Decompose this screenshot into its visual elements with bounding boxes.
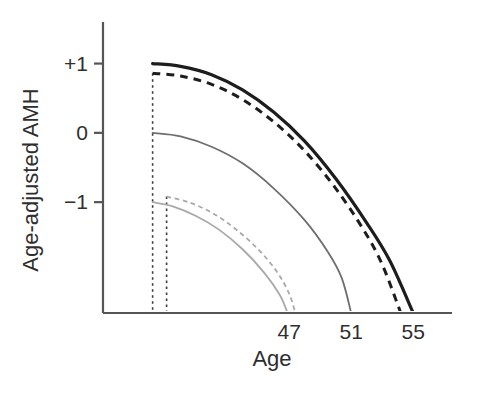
y-tick-label: −1 <box>64 190 88 213</box>
series-low-amh-dashed <box>167 197 296 313</box>
x-tick-label: 47 <box>277 320 300 343</box>
series-group <box>153 64 414 313</box>
line-chart: +10−1 475155 Age-adjusted AMH Age <box>0 0 478 395</box>
series-highest-amh-solid <box>153 64 414 313</box>
x-tick-label-group: 475155 <box>277 320 424 343</box>
annotation-group <box>153 73 167 313</box>
x-tick-label: 55 <box>402 320 425 343</box>
series-high-amh-dashed <box>153 73 401 313</box>
y-tick-label: +1 <box>64 52 88 75</box>
chart-figure: +10−1 475155 Age-adjusted AMH Age <box>0 0 478 395</box>
x-tick-label: 51 <box>339 320 362 343</box>
y-tick-group <box>94 64 103 203</box>
y-tick-label-group: +10−1 <box>64 52 88 214</box>
axis-group <box>103 22 452 313</box>
x-axis-title: Age <box>252 346 291 371</box>
y-tick-label: 0 <box>76 121 88 144</box>
y-axis-title: Age-adjusted AMH <box>18 88 43 271</box>
